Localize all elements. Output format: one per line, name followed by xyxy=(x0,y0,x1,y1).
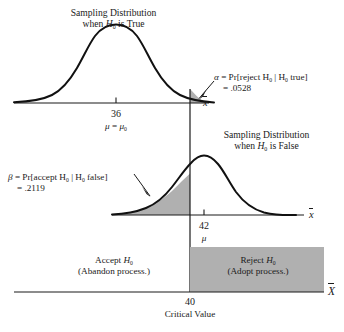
top-distribution-curve xyxy=(14,25,214,103)
beta-annotation-line1: β = Pr[accept H0 | H0 false] xyxy=(8,172,107,183)
decision-axis-xbar-label: X xyxy=(328,285,335,299)
alpha-annotation-line1: α = Pr[reject H0 | H0 true] xyxy=(214,72,308,83)
top-axis-xbar-label: x xyxy=(203,97,208,109)
bottom-distribution-title: Sampling Distribution when H0 is False xyxy=(200,129,333,152)
h0-symbol: H xyxy=(106,18,113,29)
h0-subscript: 0 xyxy=(273,260,276,266)
reject-region-line1: Reject H0 xyxy=(194,255,322,266)
top-distribution-title-line1: Sampling Distribution xyxy=(47,7,180,18)
beta-leader-line xyxy=(134,174,150,196)
h0-subscript: 0 xyxy=(130,260,133,266)
bottom-mean-mu-label: μ xyxy=(176,233,232,244)
bottom-distribution-title-line2: when H0 is False xyxy=(200,140,333,151)
alpha-annotation: α = Pr[reject H0 | H0 true] = .0528 xyxy=(214,72,308,94)
accept-region-label: Accept H0 (Abandon process.) xyxy=(46,255,182,277)
bottom-distribution-title-line1: Sampling Distribution xyxy=(200,129,333,140)
accept-region-line2: (Abandon process.) xyxy=(46,266,182,277)
bottom-mean-label-group: 42 μ xyxy=(176,220,232,244)
beta-annotation: β = Pr[accept H0 | H0 false] = .2119 xyxy=(8,172,107,194)
top-mean-value: 36 xyxy=(88,108,144,120)
accept-region-line1: Accept H0 xyxy=(46,255,182,266)
bottom-mean-value: 42 xyxy=(176,220,232,232)
critical-value-caption: 40 Critical Value xyxy=(133,296,247,320)
bottom-axis-xbar-label: x xyxy=(309,209,314,221)
top-mean-label-group: 36 μ = μ0 xyxy=(88,108,144,132)
top-distribution-title: Sampling Distribution when H0 is True xyxy=(47,7,180,30)
critical-value-text: Critical Value xyxy=(133,309,247,320)
figure-graphics xyxy=(0,0,344,332)
reject-region-label: Reject H0 (Adopt process.) xyxy=(194,255,322,277)
critical-value-number: 40 xyxy=(133,296,247,308)
reject-region-line2: (Adopt process.) xyxy=(194,266,322,277)
top-mean-mu-label: μ = μ0 xyxy=(88,121,144,132)
bottom-distribution-curve xyxy=(112,156,296,216)
hypothesis-test-figure: Sampling Distribution when H0 is True α … xyxy=(0,0,344,332)
top-distribution-title-line2: when H0 is True xyxy=(47,18,180,29)
beta-annotation-value: = .2119 xyxy=(8,183,107,194)
h0-symbol: H xyxy=(266,255,273,265)
alpha-annotation-value: = .0528 xyxy=(214,83,308,94)
